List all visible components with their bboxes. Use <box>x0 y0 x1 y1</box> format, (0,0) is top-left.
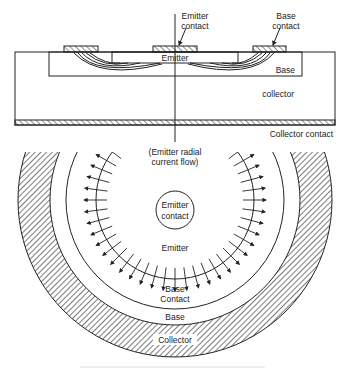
emitter-contact-circle <box>156 191 194 229</box>
faint-caption <box>80 366 265 368</box>
label-collector: collector <box>262 89 294 99</box>
label-flow: (Emitter radial <box>149 147 202 157</box>
label-emitter-contact-2: contact <box>181 21 209 31</box>
label-emitter: Emitter <box>162 53 189 63</box>
label-base-contact-top-2: Contact <box>160 294 190 304</box>
label-collector-contact: Collector contact <box>270 129 334 139</box>
label-base-contact: Base <box>276 11 296 21</box>
label-emitter-top: Emitter <box>162 243 189 253</box>
label-collector-top: Collector <box>158 335 192 345</box>
label-emitter-contact: Emitter <box>182 11 209 21</box>
label-base-contact-2: contact <box>272 21 300 31</box>
label-emitter-contact-top-2: contact <box>161 211 189 221</box>
left-base-contact <box>64 46 98 52</box>
label-emitter-contact-top: Emitter <box>162 200 189 210</box>
label-flow-2: current flow) <box>152 157 199 167</box>
right-base-contact <box>253 46 286 52</box>
transistor-diagram: Emitter contact Base contact Emitter Bas… <box>0 0 349 372</box>
label-base-top: Base <box>165 312 185 322</box>
label-base-contact-top: Base <box>165 284 185 294</box>
label-base: Base <box>276 65 296 75</box>
